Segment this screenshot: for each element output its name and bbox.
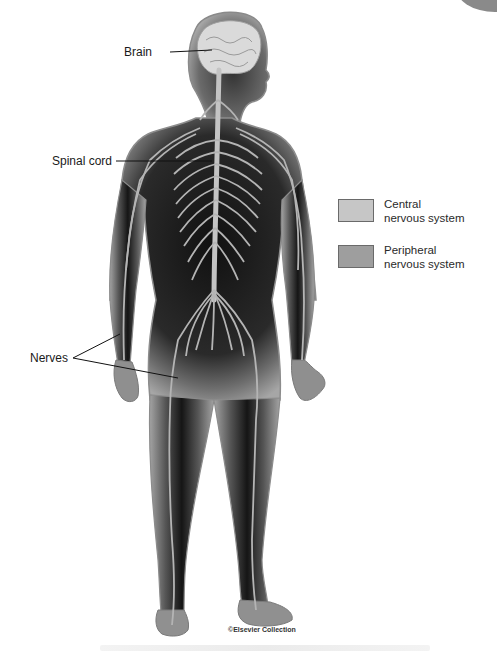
peripheral-swatch: [338, 245, 374, 268]
legend-central-line1: Central: [384, 197, 484, 211]
faint-caption-strip: [100, 645, 430, 651]
label-spinal-cord: Spinal cord: [52, 154, 112, 168]
legend-label-central: Central nervous system: [384, 197, 484, 225]
central-swatch: [338, 199, 374, 222]
legend-item-peripheral: Peripheral nervous system: [338, 243, 484, 271]
legend-label-peripheral: Peripheral nervous system: [384, 243, 484, 271]
legend: Central nervous system Peripheral nervou…: [338, 197, 484, 289]
copyright-notice: ©Elsevier Collection: [228, 626, 296, 633]
leader-lines: [0, 0, 497, 653]
legend-item-central: Central nervous system: [338, 197, 484, 225]
legend-peripheral-line1: Peripheral: [384, 243, 484, 257]
legend-central-line2: nervous system: [384, 211, 484, 225]
label-brain: Brain: [124, 45, 152, 59]
nervous-system-diagram: Brain Spinal cord Nerves Central nervous…: [0, 0, 497, 653]
legend-peripheral-line2: nervous system: [384, 257, 484, 271]
label-nerves: Nerves: [30, 351, 68, 365]
